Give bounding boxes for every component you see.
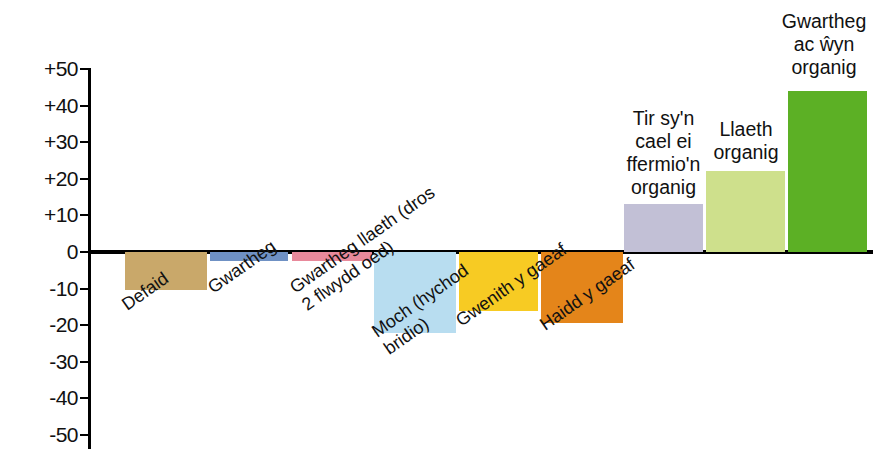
y-tick-label: +30 <box>0 131 78 152</box>
y-tick-label-text: 0 <box>4 241 78 262</box>
y-tick-label-text: +30 <box>4 131 78 152</box>
y-tick-label: +40 <box>0 95 78 116</box>
y-tick-label-text: -50 <box>4 424 78 445</box>
bar-category-label: Gwartheg ac ŵyn organig <box>766 10 875 79</box>
y-tick-label-text: +10 <box>4 204 78 225</box>
bar-chart: +50+40+30+20+100-10-20-30-40-50 DefaidGw… <box>0 0 875 471</box>
y-tick-label: -10 <box>0 278 78 299</box>
bar-category-label: Llaeth organig <box>690 118 802 164</box>
y-tick-label: -40 <box>0 387 78 408</box>
y-tick-label-text: -10 <box>4 278 78 299</box>
y-tick-label-text: -30 <box>4 351 78 372</box>
bar <box>788 91 867 252</box>
y-tick-label: -50 <box>0 424 78 445</box>
y-tick-label: +10 <box>0 204 78 225</box>
y-tick-label-text: -20 <box>4 314 78 335</box>
y-tick-label: -30 <box>0 351 78 372</box>
y-tick-label-text: +20 <box>4 168 78 189</box>
y-tick-label: 0 <box>0 241 78 262</box>
y-tick-label: +50 <box>0 58 78 79</box>
y-tick-label: -20 <box>0 314 78 335</box>
y-tick-label-text: -40 <box>4 387 78 408</box>
y-tick-label-text: +40 <box>4 95 78 116</box>
y-tick-label-text: +50 <box>4 58 78 79</box>
y-tick-label: +20 <box>0 168 78 189</box>
